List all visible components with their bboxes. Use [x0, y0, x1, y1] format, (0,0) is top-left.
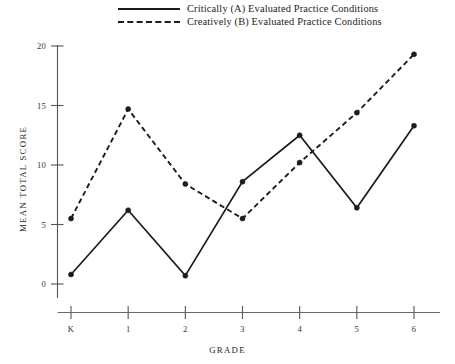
x-tick-label: 1	[115, 324, 141, 334]
figure-container: Critically (A) Evaluated Practice Condit…	[0, 0, 455, 364]
y-tick-label: 20	[20, 41, 46, 51]
x-tick-label: 4	[287, 324, 313, 334]
x-tick-label: 2	[172, 324, 198, 334]
y-tick-label: 0	[20, 279, 46, 289]
plot-area	[0, 0, 455, 364]
x-tick-label: 6	[401, 324, 427, 334]
x-tick-label: 3	[230, 324, 256, 334]
x-tick-label: 5	[344, 324, 370, 334]
y-tick-label: 15	[20, 101, 46, 111]
series-a-markers	[69, 123, 417, 278]
series-b-polyline	[71, 54, 414, 218]
y-axis-title: MEAN TOTAL SCORE	[18, 126, 28, 232]
series-a-polyline	[71, 126, 414, 276]
x-axis-title: GRADE	[0, 345, 455, 355]
x-tick-label: K	[58, 324, 84, 334]
